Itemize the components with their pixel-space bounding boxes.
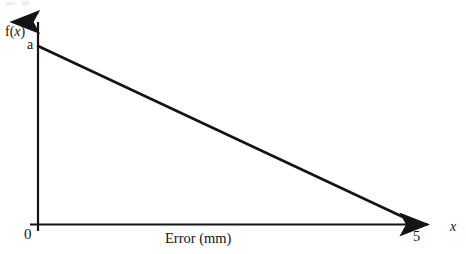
y-axis-label-suffix: ) [21, 24, 26, 39]
plot-graphics [0, 0, 466, 254]
figure-canvas: f(x) x Error (mm) 0 5 a [0, 0, 466, 254]
origin-tick-label: 0 [24, 227, 32, 242]
density-line-series [38, 46, 418, 224]
y-intercept-label: a [27, 38, 33, 52]
x-axis-caption: Error (mm) [165, 231, 231, 246]
y-axis-label: f(x) [5, 25, 25, 39]
x-axis-label: x [450, 220, 456, 234]
x-max-tick-label: 5 [413, 229, 420, 244]
y-axis-label-prefix: f( [5, 24, 14, 39]
